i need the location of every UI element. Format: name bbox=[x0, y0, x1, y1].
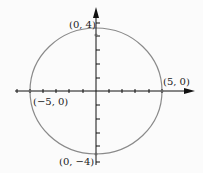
label-bottom-vertex: (0, −4) bbox=[59, 157, 94, 167]
label-left-vertex: (−5, 0) bbox=[33, 97, 68, 107]
label-top-vertex: (0, 4) bbox=[69, 20, 96, 30]
x-axis-arrow-icon bbox=[184, 88, 195, 94]
ellipse-diagram: (0, 4) (5, 0) (−5, 0) (0, −4) bbox=[0, 0, 203, 173]
label-right-vertex: (5, 0) bbox=[163, 77, 190, 87]
y-axis-arrow-icon bbox=[93, 7, 99, 18]
y-ticks bbox=[96, 23, 100, 162]
